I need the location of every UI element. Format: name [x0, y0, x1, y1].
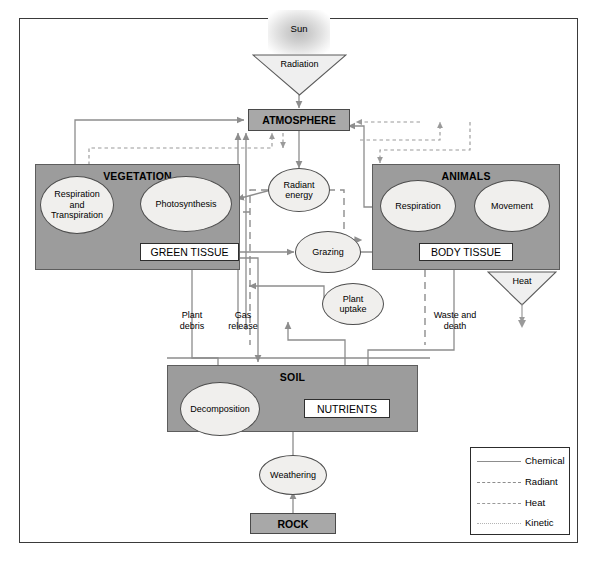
photosynthesis-ellipse[interactable]: Photosynthesis: [140, 176, 232, 232]
veg-resp-line3: Transpiration: [51, 210, 103, 221]
veg-resp-line2: and: [69, 200, 84, 211]
radiant-energy-ellipse[interactable]: Radiant energy: [268, 168, 330, 212]
radiant-energy-line2: energy: [285, 190, 313, 201]
sun-label: Sun: [268, 23, 330, 34]
plant-uptake-ellipse[interactable]: Plant uptake: [322, 283, 384, 325]
animals-respiration-ellipse[interactable]: Respiration: [380, 180, 456, 232]
soil-title: SOIL: [168, 371, 417, 383]
heat-dissipation-arrow: [508, 303, 532, 331]
legend-line-kinetic: [477, 523, 521, 524]
movement-label: Movement: [491, 201, 533, 212]
legend-item-heat: Heat: [471, 494, 571, 514]
waste-death-label: Waste and death: [419, 310, 491, 331]
legend-line-radiant: [477, 482, 521, 483]
rock-box[interactable]: ROCK: [250, 513, 336, 534]
body-tissue-box[interactable]: BODY TISSUE: [419, 243, 513, 261]
rock-label: ROCK: [278, 518, 309, 530]
chemical-flow-lines: [75, 95, 454, 514]
grazing-ellipse[interactable]: Grazing: [295, 231, 361, 273]
heat-label: Heat: [487, 276, 557, 286]
animals-title: ANIMALS: [373, 170, 559, 182]
diagram-canvas: Sun Radiation ATMOSPHERE VEGETATION Resp…: [0, 0, 596, 561]
legend-line-chemical: [477, 461, 521, 462]
green-tissue-box[interactable]: GREEN TISSUE: [140, 243, 239, 261]
waste-death-line2: death: [419, 321, 491, 332]
gas-release-line2: release: [208, 321, 278, 332]
vegetation-respiration-ellipse[interactable]: Respiration and Transpiration: [40, 176, 114, 234]
legend-item-chemical: Chemical: [471, 452, 571, 472]
heat-triangle: Heat: [487, 271, 557, 306]
atmosphere-label: ATMOSPHERE: [262, 114, 335, 126]
radiant-energy-line1: Radiant: [283, 180, 314, 191]
decomposition-ellipse[interactable]: Decomposition: [180, 382, 260, 436]
legend-item-kinetic: Kinetic: [471, 514, 571, 534]
legend-label-kinetic: Kinetic: [525, 517, 554, 528]
green-tissue-label: GREEN TISSUE: [151, 246, 229, 258]
waste-death-line1: Waste and: [419, 310, 491, 321]
legend-item-radiant: Radiant: [471, 473, 571, 493]
photosynthesis-label: Photosynthesis: [155, 199, 216, 210]
plant-uptake-line1: Plant: [343, 294, 364, 305]
animals-respiration-label: Respiration: [395, 201, 441, 212]
veg-resp-line1: Respiration: [54, 189, 100, 200]
atmosphere-box[interactable]: ATMOSPHERE: [248, 109, 350, 131]
plant-uptake-line2: uptake: [339, 304, 366, 315]
gas-release-line1: Gas: [208, 310, 278, 321]
nutrients-box[interactable]: NUTRIENTS: [304, 399, 390, 418]
legend-label-heat: Heat: [525, 497, 545, 508]
gas-release-label: Gas release: [208, 310, 278, 331]
sun-glow: Sun: [268, 10, 330, 54]
radiation-triangle: Radiation: [252, 54, 347, 96]
grazing-label: Grazing: [312, 247, 344, 258]
nutrients-label: NUTRIENTS: [317, 403, 377, 415]
weathering-label: Weathering: [270, 470, 316, 481]
legend-label-radiant: Radiant: [525, 476, 558, 487]
movement-ellipse[interactable]: Movement: [474, 180, 550, 232]
legend-line-heat: [477, 503, 521, 504]
body-tissue-label: BODY TISSUE: [431, 246, 501, 258]
radiation-label: Radiation: [252, 59, 347, 69]
decomposition-label: Decomposition: [190, 404, 250, 415]
legend-label-chemical: Chemical: [525, 455, 565, 466]
weathering-ellipse[interactable]: Weathering: [259, 455, 327, 495]
legend: Chemical Radiant Heat Kinetic: [470, 447, 570, 535]
